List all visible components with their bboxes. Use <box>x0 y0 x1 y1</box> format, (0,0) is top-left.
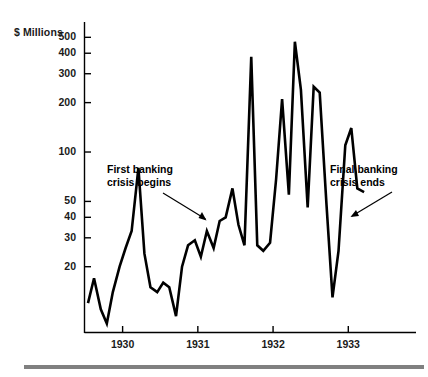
annotation-final-banking-crisis: Final banking crisis ends <box>330 163 398 189</box>
y-tick-label: 40 <box>20 210 76 222</box>
final-crisis-arrow-head <box>351 210 360 217</box>
y-tick-label: 100 <box>20 145 76 157</box>
y-tick-label: 500 <box>20 30 76 42</box>
y-tick-label: 50 <box>20 194 76 206</box>
x-tick-label: 1931 <box>168 338 228 350</box>
annotation-arrows <box>163 192 392 221</box>
y-tick-label: 300 <box>20 67 76 79</box>
annotation-final-line1: Final banking <box>330 163 398 175</box>
annotation-final-line2: crisis ends <box>330 176 398 189</box>
y-tick-label: 20 <box>20 260 76 272</box>
x-tick-label: 1932 <box>243 338 303 350</box>
y-tick-label: 400 <box>20 46 76 58</box>
bottom-divider-rule <box>24 365 424 369</box>
x-tick-label: 1933 <box>318 338 378 350</box>
first-crisis-arrow-line <box>163 193 206 219</box>
chart-figure: $ Millions 20304050100200300400500 19301… <box>0 0 428 377</box>
first-crisis-arrow-head <box>199 212 207 221</box>
annotation-first-banking-crisis: First banking crisis begins <box>107 163 173 189</box>
annotation-first-line2: crisis begins <box>107 176 173 189</box>
annotation-first-line1: First banking <box>107 163 173 175</box>
y-tick-label: 200 <box>20 96 76 108</box>
x-tick-label: 1930 <box>93 338 153 350</box>
final-crisis-arrow-line <box>352 192 392 216</box>
y-tick-label: 30 <box>20 231 76 243</box>
